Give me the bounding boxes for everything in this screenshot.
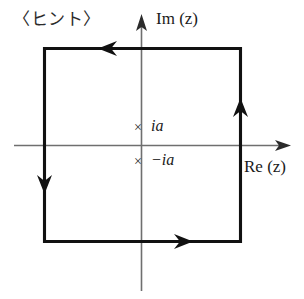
hint-label: 〈ヒント〉 <box>13 11 101 28</box>
pole-ia-marker-icon: × <box>134 120 142 136</box>
imaginary-axis-label: Im (z) <box>156 10 198 27</box>
pole-minus-ia-label: −ia <box>151 152 174 168</box>
pole-ia-label: ia <box>151 118 163 134</box>
pole-minus-ia-marker-icon: × <box>134 154 142 170</box>
figure-canvas: 〈ヒント〉 Im (z) Re (z) × ia × −ia <box>0 0 304 299</box>
real-axis-label: Re (z) <box>244 158 286 175</box>
complex-plane-diagram <box>0 0 304 299</box>
